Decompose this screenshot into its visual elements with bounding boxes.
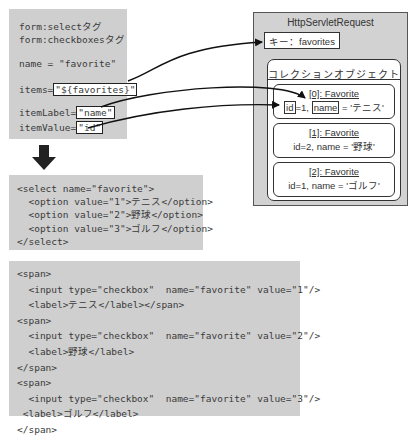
- itemlabel-to-name-arrow: [101, 87, 305, 107]
- items-to-key-arrow: [128, 42, 262, 81]
- itemvalue-to-id-arrow: [88, 105, 279, 128]
